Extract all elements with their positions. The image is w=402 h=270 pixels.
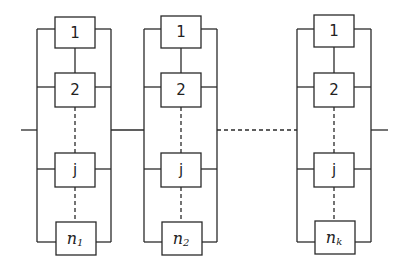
subsystem-k: 1 2 j nk [297,15,371,254]
block-label: 1 [176,23,186,41]
diagram-canvas: 1 2 j n1 1 2 j [0,0,402,270]
block-label: 2 [176,81,186,99]
series-parallel-diagram: 1 2 j n1 1 2 j [0,0,402,270]
block-label: 2 [70,81,80,99]
subsystem-2: 1 2 j n2 [144,16,217,255]
block-label: j [178,161,183,179]
block-label: 1 [70,24,80,42]
block-label: 2 [329,81,339,99]
block-label: j [72,161,77,179]
block-label: 1 [329,22,339,40]
subsystem-1: 1 2 j n1 [37,17,111,255]
block-label: j [331,161,336,179]
